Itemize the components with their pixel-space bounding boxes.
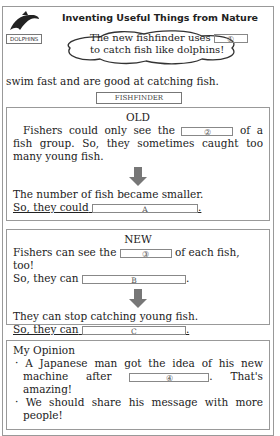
down-arrow-icon — [13, 289, 263, 308]
blank-3[interactable]: ③ — [120, 249, 172, 258]
intro-line: swim fast and are good at catching fish. — [6, 75, 219, 87]
old-heading: OLD — [13, 111, 263, 124]
fishfinder-label: FISHFINDER — [96, 92, 182, 104]
opinion-heading: My Opinion — [13, 344, 263, 357]
blank-1[interactable]: ① — [214, 34, 248, 43]
opinion-bullet-2: · We should share his message with more … — [13, 396, 263, 422]
down-arrow-icon — [13, 167, 263, 186]
opinion-box: My Opinion · A Japanese man got the idea… — [6, 340, 270, 430]
cloud-text: The new fishfinder uses ① to catch fish … — [90, 32, 248, 56]
new-box: NEW Fishers can see the ③ of each fish, … — [6, 229, 270, 325]
blank-C[interactable]: C — [82, 326, 186, 335]
old-box: OLD Fishers could only see the ② of a fi… — [6, 107, 270, 221]
dolphin-icon — [8, 10, 40, 32]
poster-title: Inventing Useful Things from Nature — [62, 12, 258, 23]
blank-4[interactable]: ④ — [129, 373, 209, 382]
new-heading: NEW — [13, 233, 263, 246]
opinion-bullet-1: · A Japanese man got the idea of his new… — [13, 357, 263, 396]
blank-2[interactable]: ② — [181, 127, 233, 136]
blank-A[interactable]: A — [92, 204, 198, 213]
dolphins-label: DOLPHINS — [6, 34, 42, 44]
blank-B[interactable]: B — [82, 275, 186, 284]
